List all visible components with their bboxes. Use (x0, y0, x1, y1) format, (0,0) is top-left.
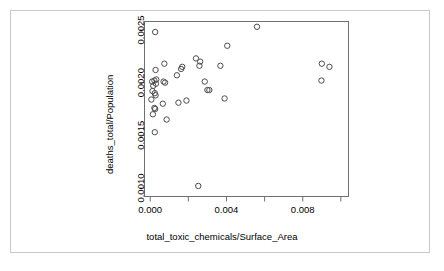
x-axis-tick-label: 0.008 (291, 204, 315, 215)
y-axis-title: deaths_total/Population (104, 75, 115, 174)
scatter-point (162, 80, 167, 85)
scatter-point (160, 101, 165, 106)
plot-box (145, 22, 349, 197)
y-axis-tick-label: 0.0020 (135, 68, 146, 97)
scatter-point (174, 73, 179, 78)
scatter-plot-figure: 0.0000.0040.008 0.00100.00150.00200.0025… (0, 0, 444, 271)
scatter-point (153, 67, 158, 72)
scatter-point (152, 129, 157, 134)
y-axis-ticks (140, 30, 145, 188)
x-axis-title: total_toxic_chemicals/Surface_Area (0, 231, 444, 242)
scatter-point (319, 61, 324, 66)
scatter-point (150, 112, 155, 117)
scatter-point (202, 79, 207, 84)
scatter-point (196, 183, 201, 188)
scatter-point (319, 78, 324, 83)
scatter-point (152, 29, 157, 34)
scatter-point (218, 63, 223, 68)
scatter-point (225, 43, 230, 48)
scatter-point (254, 24, 259, 29)
scatter-point (222, 96, 227, 101)
scatter-point (184, 98, 189, 103)
y-axis-tick-label: 0.0010 (135, 174, 146, 203)
x-axis-ticks (150, 197, 341, 202)
scatter-point (164, 117, 169, 122)
scatter-point (149, 97, 154, 102)
y-axis-tick-label: 0.0015 (135, 121, 146, 150)
y-axis-tick-label: 0.0025 (135, 15, 146, 44)
x-axis-tick-label: 0.000 (138, 204, 162, 215)
scatter-point (327, 64, 332, 69)
scatter-points-group (149, 24, 332, 189)
scatter-point (162, 61, 167, 66)
x-axis-tick-label: 0.004 (215, 204, 239, 215)
scatter-point (176, 100, 181, 105)
plot-border-rect (145, 22, 349, 197)
